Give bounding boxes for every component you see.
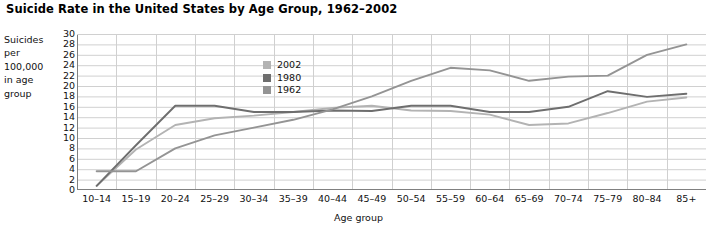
x-tick-label: 30–34: [239, 194, 268, 204]
x-tick-label: 55–59: [436, 194, 465, 204]
legend-item-2002[interactable]: 2002: [263, 59, 301, 72]
legend-item-1980[interactable]: 1980: [263, 72, 301, 85]
y-axis-title: Suicidesper100,000in agegroup: [4, 33, 56, 100]
y-axis-title-line: in age: [4, 73, 56, 86]
y-tick-label: 10: [63, 133, 75, 143]
page-title: Suicide Rate in the United States by Age…: [6, 2, 397, 16]
x-tick-label: 10–14: [82, 194, 111, 204]
y-tick-label: 20: [63, 81, 75, 91]
y-tick-label: 18: [63, 92, 75, 102]
legend-item-label: 1980: [277, 72, 301, 85]
y-tick-label: 30: [63, 29, 75, 39]
x-axis-title: Age group: [0, 212, 717, 223]
x-tick-label: 50–54: [397, 194, 426, 204]
x-tick-label: 75–79: [593, 194, 622, 204]
y-tick-label: 28: [63, 40, 75, 50]
y-tick-label: 24: [63, 60, 75, 70]
plot-area: [77, 34, 706, 190]
y-axis-title-line: per: [4, 46, 56, 59]
x-tick-label: 20–24: [161, 194, 190, 204]
x-tick-label: 15–19: [122, 194, 151, 204]
x-tick-label: 80–84: [633, 194, 662, 204]
x-tick-label: 70–74: [554, 194, 583, 204]
legend-item-label: 1962: [277, 84, 301, 97]
x-tick-label: 25–29: [200, 194, 229, 204]
legend-item-1962[interactable]: 1962: [263, 84, 301, 97]
line-chart-svg: [77, 34, 706, 190]
x-tick-label: 85+: [676, 194, 696, 204]
y-tick-label: 22: [63, 71, 75, 81]
y-tick-label: 2: [69, 175, 75, 185]
y-tick-label: 6: [69, 154, 75, 164]
x-axis-tick-labels: 10–1415–1920–2425–2930–3435–3940–4445–49…: [77, 194, 706, 208]
legend-swatch-icon: [263, 61, 271, 69]
x-tick-label: 65–69: [515, 194, 544, 204]
y-tick-label: 16: [63, 102, 75, 112]
legend-item-label: 2002: [277, 59, 301, 72]
y-tick-label: 26: [63, 50, 75, 60]
y-tick-label: 8: [69, 144, 75, 154]
y-tick-label: 12: [63, 123, 75, 133]
x-tick-label: 60–64: [475, 194, 504, 204]
chart-figure: Suicide Rate in the United States by Age…: [0, 0, 717, 234]
y-axis-title-line: 100,000: [4, 60, 56, 73]
y-tick-label: 0: [69, 185, 75, 195]
y-tick-label: 4: [69, 164, 75, 174]
y-tick-label: 14: [63, 112, 75, 122]
legend-swatch-icon: [263, 86, 271, 94]
y-axis-title-line: Suicides: [4, 33, 56, 46]
x-tick-label: 45–49: [357, 194, 386, 204]
legend-swatch-icon: [263, 74, 271, 82]
y-axis-title-line: group: [4, 87, 56, 100]
x-tick-label: 40–44: [318, 194, 347, 204]
chart-legend: 200219801962: [263, 59, 301, 97]
y-axis-tick-labels: 024681012141618202224262830: [55, 34, 75, 190]
x-tick-label: 35–39: [279, 194, 308, 204]
